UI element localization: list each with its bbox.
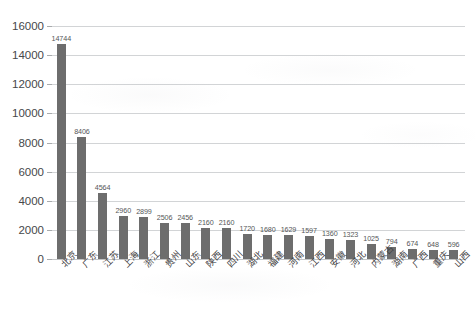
- y-axis-tick-label: 0: [0, 253, 44, 265]
- bar-value-label: 4564: [89, 184, 117, 192]
- y-axis-tick-label: 14000: [0, 49, 44, 61]
- y-axis-tick-label: 12000: [0, 78, 44, 90]
- y-axis-tick-mark: [47, 259, 52, 260]
- y-axis-tick-mark: [47, 172, 52, 173]
- y-axis-tick-mark: [47, 55, 52, 56]
- bar: [57, 44, 66, 259]
- gridline: [52, 113, 465, 114]
- bar: [98, 193, 107, 259]
- bar-chart: 1600014000120001000080006000400020000 14…: [0, 0, 475, 313]
- gridline: [52, 172, 465, 173]
- y-axis-tick-mark: [47, 26, 52, 27]
- bar: [160, 223, 169, 259]
- plot-area: 1474484064564296028992506245621602160172…: [52, 26, 465, 259]
- y-axis-tick-label: 2000: [0, 224, 44, 236]
- gridline: [52, 55, 465, 56]
- bar-value-label: 14744: [47, 35, 75, 43]
- gridline: [52, 26, 465, 27]
- bar: [181, 223, 190, 259]
- y-axis-tick-label: 4000: [0, 195, 44, 207]
- y-axis-tick-mark: [47, 113, 52, 114]
- bar: [77, 137, 86, 259]
- bar: [139, 217, 148, 259]
- gridline: [52, 201, 465, 202]
- y-axis-tick-mark: [47, 230, 52, 231]
- y-axis-tick-mark: [47, 201, 52, 202]
- y-axis-tick-label: 8000: [0, 137, 44, 149]
- y-axis-tick-label: 6000: [0, 166, 44, 178]
- y-axis-tick-label: 16000: [0, 20, 44, 32]
- bar: [222, 228, 231, 259]
- bar-value-label: 8406: [68, 128, 96, 136]
- bar: [119, 216, 128, 259]
- gridline: [52, 84, 465, 85]
- gridline: [52, 143, 465, 144]
- y-axis-tick-mark: [47, 84, 52, 85]
- y-axis-tick-label: 10000: [0, 107, 44, 119]
- y-axis-tick-mark: [47, 143, 52, 144]
- bar: [201, 228, 210, 259]
